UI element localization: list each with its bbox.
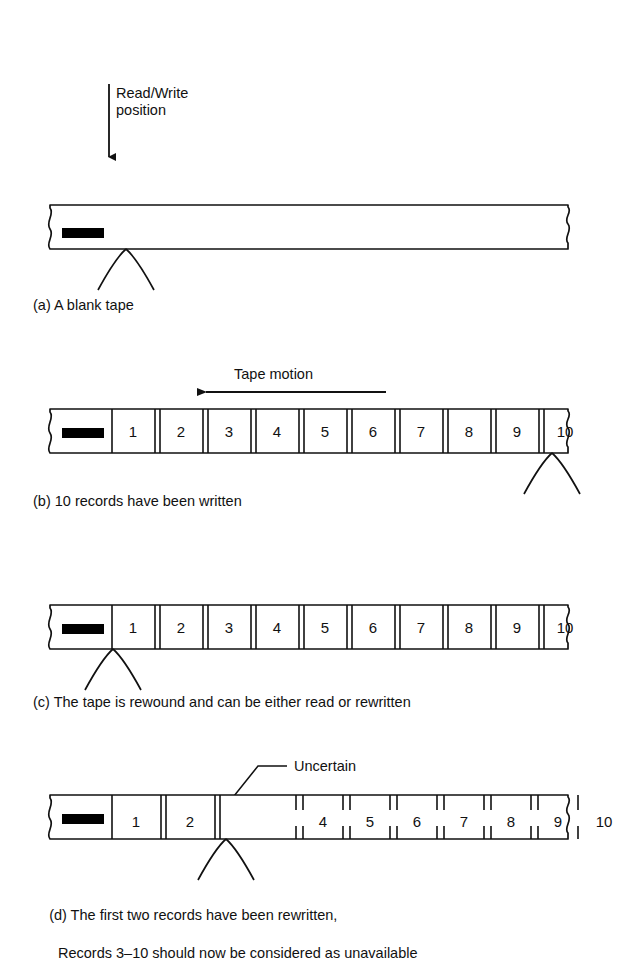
load-point-marker-c [62, 624, 104, 634]
record-label-b-2: 2 [177, 423, 185, 440]
caption-b: (b) 10 records have been written [33, 492, 242, 511]
caption-d: (d) The first two records have been rewr… [33, 887, 418, 962]
panel-d-tape [49, 795, 578, 839]
record-label-b-4: 4 [273, 423, 281, 440]
record-label-b-7: 7 [417, 423, 425, 440]
caption-c: (c) The tape is rewound and can be eithe… [33, 693, 411, 712]
record-label-b-5: 5 [321, 423, 329, 440]
panel-d-head-pointer [198, 839, 254, 880]
panel-b-head-pointer [524, 453, 580, 494]
caption-d-line-2: Records 3–10 should now be considered as… [58, 944, 418, 962]
record-label-c-7: 7 [417, 619, 425, 636]
record-label-d-2: 2 [186, 813, 194, 830]
record-label-c-1: 1 [129, 619, 137, 636]
record-label-c-3: 3 [225, 619, 233, 636]
panel-a-tape [49, 205, 570, 249]
record-label-b-10: 10 [557, 423, 574, 440]
load-point-marker-d [62, 814, 104, 824]
load-point-marker-b [62, 428, 104, 438]
record-label-c-8: 8 [465, 619, 473, 636]
record-label-d-7: 7 [460, 813, 468, 830]
record-label-b-3: 3 [225, 423, 233, 440]
caption-a: (a) A blank tape [33, 296, 134, 315]
record-label-d-10: 10 [596, 813, 613, 830]
uncertain-label: Uncertain [294, 758, 356, 774]
record-label-c-6: 6 [369, 619, 377, 636]
record-label-d-8: 8 [507, 813, 515, 830]
record-label-c-9: 9 [513, 619, 521, 636]
panel-b-tape [49, 409, 570, 453]
record-label-d-1: 1 [132, 813, 140, 830]
record-label-b-8: 8 [465, 423, 473, 440]
load-point-marker-a [62, 228, 104, 238]
record-label-c-4: 4 [273, 619, 281, 636]
record-label-b-1: 1 [129, 423, 137, 440]
panel-c-tape [49, 605, 570, 649]
record-label-d-9: 9 [554, 813, 562, 830]
record-label-c-5: 5 [321, 619, 329, 636]
panel-c-head-pointer [85, 649, 141, 690]
tape-motion-label: Tape motion [234, 366, 313, 382]
panel-a-head-pointer [98, 249, 154, 290]
rw-line-1: Read/Write [116, 85, 188, 101]
read-write-position-label: Read/Writeposition [116, 85, 188, 119]
record-label-c-2: 2 [177, 619, 185, 636]
record-label-b-9: 9 [513, 423, 521, 440]
record-label-d-6: 6 [413, 813, 421, 830]
rw-line-2: position [116, 102, 166, 118]
record-label-c-10: 10 [557, 619, 574, 636]
record-label-b-6: 6 [369, 423, 377, 440]
record-label-d-4: 4 [319, 813, 327, 830]
record-label-d-5: 5 [366, 813, 374, 830]
caption-d-line-1: (d) The first two records have been rewr… [49, 907, 337, 923]
